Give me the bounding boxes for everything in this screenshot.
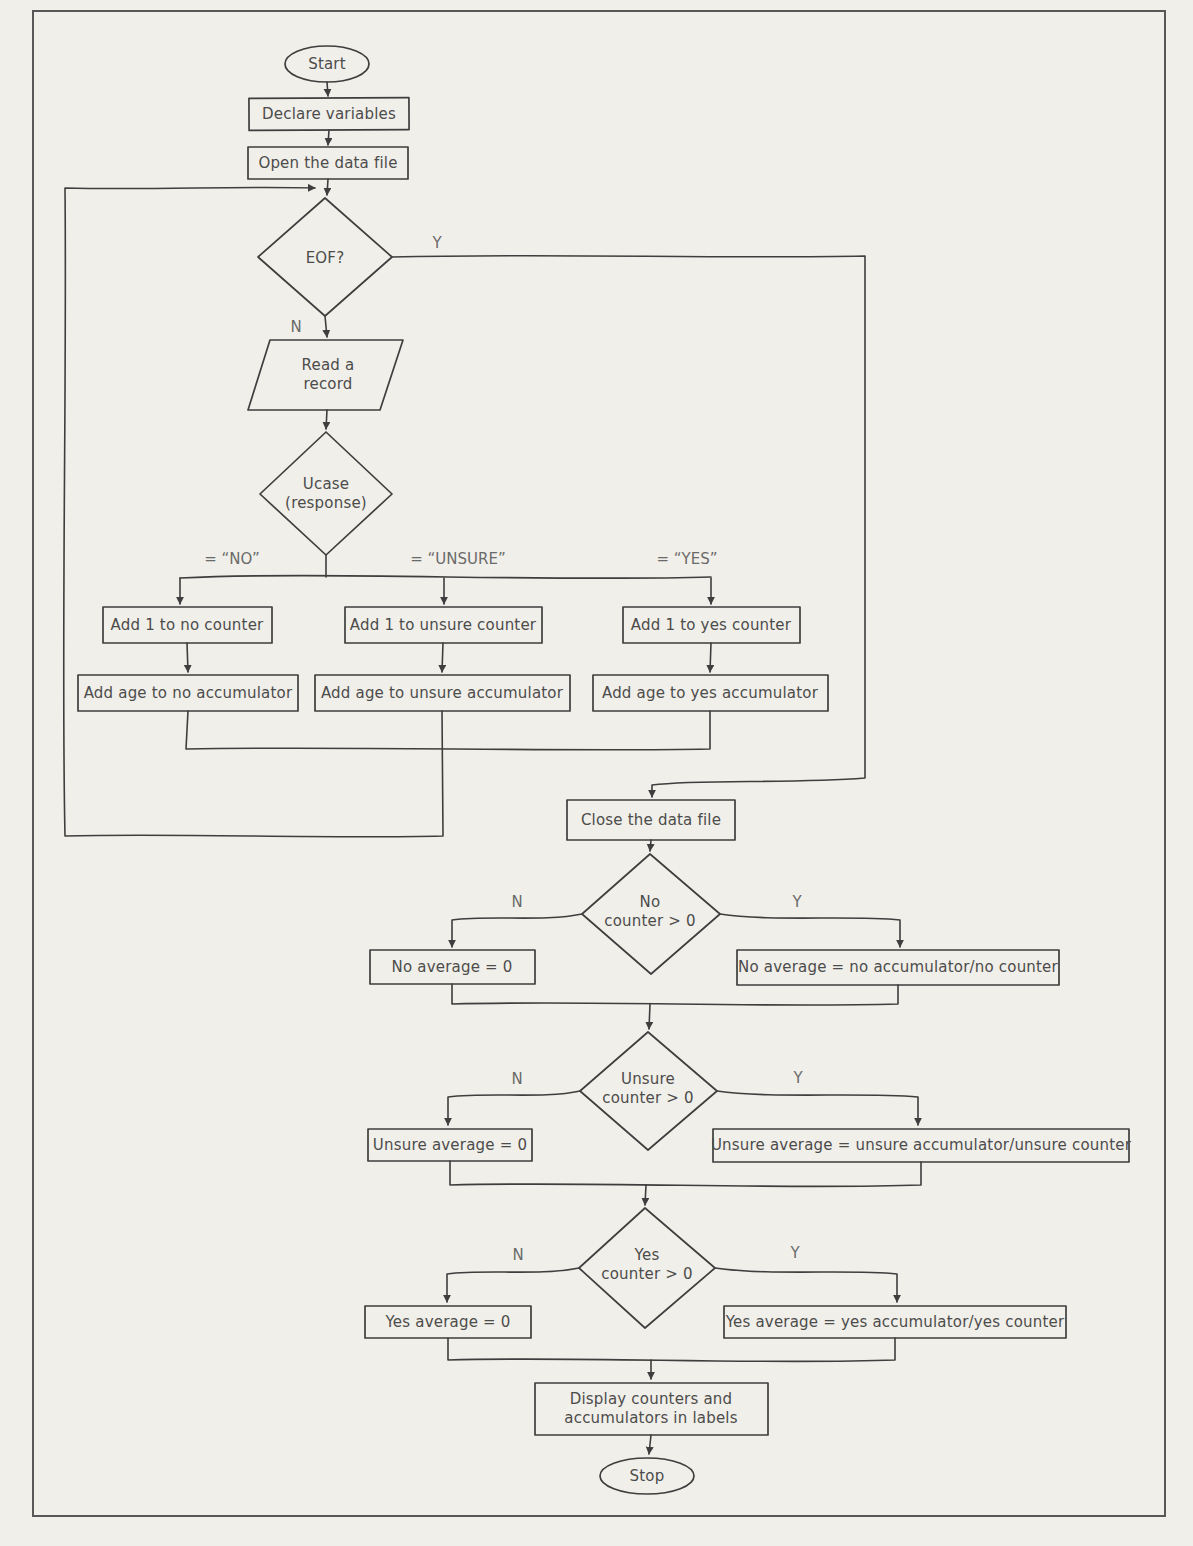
- edge-close-nodecision: [650, 840, 651, 851]
- edge-add1-addage-no: [187, 643, 188, 672]
- edge-yes-merge: [448, 1338, 895, 1362]
- add1-no-label: Add 1 to no counter: [111, 616, 264, 635]
- edge-read-ucase: [326, 410, 327, 429]
- edge-declare-open: [328, 130, 329, 145]
- edge-unsure-y: [717, 1091, 918, 1125]
- no-avg-calc-label: No average = no accumulator/no counter: [738, 958, 1058, 977]
- display-results-label: Display counters and accumulators in lab…: [564, 1390, 737, 1428]
- edge-no-n: [452, 914, 582, 947]
- eof-yes-label: Y: [432, 234, 441, 252]
- read-record-line1: Read a: [302, 356, 355, 375]
- edge-merge-unsuredecision: [649, 1004, 650, 1029]
- addage-unsure-label: Add age to unsure accumulator: [321, 684, 563, 703]
- edge-start-declare: [327, 82, 328, 96]
- edge-unsure-n: [448, 1091, 580, 1125]
- edge-add1-addage-yes: [710, 643, 711, 672]
- edge-eof-yes-close: [392, 256, 865, 797]
- unsure-decision-line2: counter > 0: [602, 1089, 694, 1108]
- yes-y-label: Y: [790, 1244, 799, 1262]
- ucase-line1: Ucase: [285, 475, 367, 494]
- ucase-decision-label: Ucase (response): [285, 475, 367, 513]
- no-avg-zero-label: No average = 0: [391, 958, 512, 977]
- yes-decision-label: Yes counter > 0: [601, 1246, 693, 1284]
- branch-unsure-label: = “UNSURE”: [410, 550, 505, 568]
- addage-no-label: Add age to no accumulator: [84, 684, 293, 703]
- display-results-line2: accumulators in labels: [564, 1409, 737, 1428]
- edge-yes-y: [715, 1268, 897, 1302]
- unsure-avg-zero-label: Unsure average = 0: [373, 1136, 527, 1155]
- flowchart-canvas: Start Declare variables Open the data fi…: [0, 0, 1193, 1546]
- add1-unsure-label: Add 1 to unsure counter: [350, 616, 536, 635]
- edge-merge-yesdecision: [645, 1185, 646, 1205]
- yes-decision-line1: Yes: [601, 1246, 693, 1265]
- branch-yes-label: = “YES”: [656, 550, 717, 568]
- no-decision-line2: counter > 0: [604, 912, 696, 931]
- branch-no-label: = “NO”: [204, 550, 260, 568]
- edge-open-eof: [327, 179, 328, 195]
- page-border: [33, 11, 1165, 1516]
- unsure-n-label: N: [511, 1070, 522, 1088]
- yes-avg-zero-label: Yes average = 0: [385, 1313, 510, 1332]
- edge-eof-read: [325, 316, 327, 337]
- yes-decision-line2: counter > 0: [601, 1265, 693, 1284]
- start-label: Start: [308, 55, 346, 74]
- add1-yes-label: Add 1 to yes counter: [631, 616, 791, 635]
- unsure-decision-label: Unsure counter > 0: [602, 1070, 694, 1108]
- read-record-label: Read a record: [302, 356, 355, 394]
- eof-decision-label: EOF?: [306, 249, 345, 268]
- no-y-label: Y: [792, 893, 801, 911]
- display-results-line1: Display counters and: [564, 1390, 737, 1409]
- unsure-y-label: Y: [793, 1069, 802, 1087]
- edge-branch-spread: [180, 576, 711, 579]
- edge-yes-n: [447, 1268, 579, 1302]
- edge-no-merge: [452, 984, 898, 1005]
- read-record-line2: record: [302, 375, 355, 394]
- edge-branch-merge: [186, 711, 710, 750]
- open-file-label: Open the data file: [258, 154, 397, 173]
- edge-display-stop: [649, 1435, 651, 1454]
- no-decision-label: No counter > 0: [604, 893, 696, 931]
- yes-avg-calc-label: Yes average = yes accumulator/yes counte…: [726, 1313, 1065, 1332]
- addage-yes-label: Add age to yes accumulator: [602, 684, 818, 703]
- no-n-label: N: [511, 893, 522, 911]
- unsure-decision-line1: Unsure: [602, 1070, 694, 1089]
- close-file-label: Close the data file: [581, 811, 721, 830]
- yes-n-label: N: [512, 1246, 523, 1264]
- unsure-avg-calc-label: Unsure average = unsure accumulator/unsu…: [711, 1136, 1131, 1155]
- stop-label: Stop: [630, 1467, 665, 1486]
- edge-no-y: [720, 914, 900, 947]
- edge-unsure-merge: [450, 1161, 921, 1187]
- declare-variables-label: Declare variables: [262, 105, 396, 124]
- eof-no-label: N: [290, 318, 301, 336]
- edge-add1-addage-unsure: [442, 643, 443, 672]
- no-decision-line1: No: [604, 893, 696, 912]
- edge-loop-back: [64, 187, 443, 836]
- ucase-line2: (response): [285, 494, 367, 513]
